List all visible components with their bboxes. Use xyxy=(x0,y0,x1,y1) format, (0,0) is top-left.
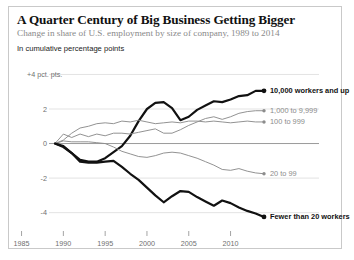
plot-area: +4 pct. pts.20-2-4 198519901995200020052… xyxy=(9,7,343,250)
series-endpoint-dots xyxy=(262,88,267,219)
series-label: 10,000 workers and up xyxy=(270,86,349,95)
series-lines xyxy=(55,91,264,217)
series-label: 100 to 999 xyxy=(270,117,305,126)
x-axis-label: 2000 xyxy=(139,239,155,248)
series-line xyxy=(55,120,264,143)
x-axis-label: 2005 xyxy=(181,239,197,248)
chart-card: A Quarter Century of Big Business Gettin… xyxy=(8,6,342,249)
x-axis-label: 1995 xyxy=(97,239,113,248)
series-endpoint-dot xyxy=(262,120,265,123)
series-endpoint-dot xyxy=(262,172,265,175)
x-axis-label: 1990 xyxy=(55,239,71,248)
series-endpoint-dot xyxy=(262,215,267,220)
series-label: Fewer than 20 workers xyxy=(270,212,350,221)
x-axis-label: 1985 xyxy=(14,239,30,248)
y-axis-label: -4 xyxy=(15,208,47,217)
series-label: 20 to 99 xyxy=(270,169,297,178)
y-axis-label: -2 xyxy=(15,174,47,183)
y-axis-label: 0 xyxy=(15,139,47,148)
series-endpoint-dot xyxy=(262,109,265,112)
y-axis-label: 2 xyxy=(15,105,47,114)
x-axis-ticks xyxy=(22,231,231,236)
x-axis-label: 2010 xyxy=(223,239,239,248)
series-endpoint-dot xyxy=(262,88,267,93)
series-line xyxy=(55,141,264,174)
series-label: 1,000 to 9,999 xyxy=(270,106,317,115)
y-axis-label: +4 pct. pts. xyxy=(27,70,87,79)
